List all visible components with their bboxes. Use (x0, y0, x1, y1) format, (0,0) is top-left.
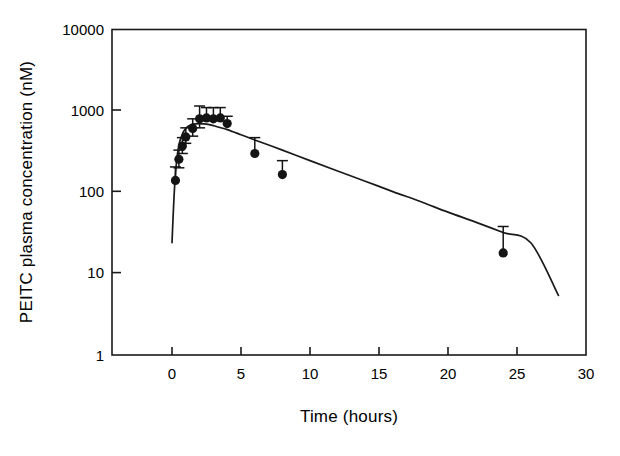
x-tick-label-20: 20 (440, 365, 457, 382)
data-point (499, 248, 508, 257)
model-curve-path (172, 124, 558, 296)
y-tick-label-1000: 1000 (71, 102, 104, 119)
x-tick-label-15: 15 (371, 365, 388, 382)
x-tick-label-0: 0 (168, 365, 176, 382)
y-tick-label-10000: 10000 (62, 21, 104, 38)
data-points-group (171, 113, 508, 257)
x-tick-label-25: 25 (509, 365, 526, 382)
y-tick-label-10: 10 (87, 264, 104, 281)
data-point (178, 141, 187, 150)
figure-panel: 10000 1000 100 10 1 0 5 10 15 20 25 30 T… (0, 0, 620, 456)
y-tick-label-100: 100 (79, 183, 104, 200)
data-point (174, 155, 183, 164)
x-tick-label-10: 10 (302, 365, 319, 382)
y-tick-label-1: 1 (96, 347, 104, 364)
data-point (171, 176, 180, 185)
data-point (278, 170, 287, 179)
y-axis-title: PEITC plasma concentration (nM) (17, 61, 36, 323)
fitted-curve (172, 124, 558, 296)
x-axis: 0 5 10 15 20 25 30 (168, 347, 595, 382)
data-point (250, 149, 259, 158)
data-point (188, 124, 197, 133)
data-point (223, 119, 232, 128)
x-tick-label-5: 5 (237, 365, 245, 382)
x-tick-label-30: 30 (578, 365, 595, 382)
plot-frame (112, 30, 586, 356)
pharmacokinetic-chart: 10000 1000 100 10 1 0 5 10 15 20 25 30 T… (0, 0, 620, 456)
x-axis-title: Time (hours) (300, 407, 398, 426)
data-point (181, 132, 190, 141)
